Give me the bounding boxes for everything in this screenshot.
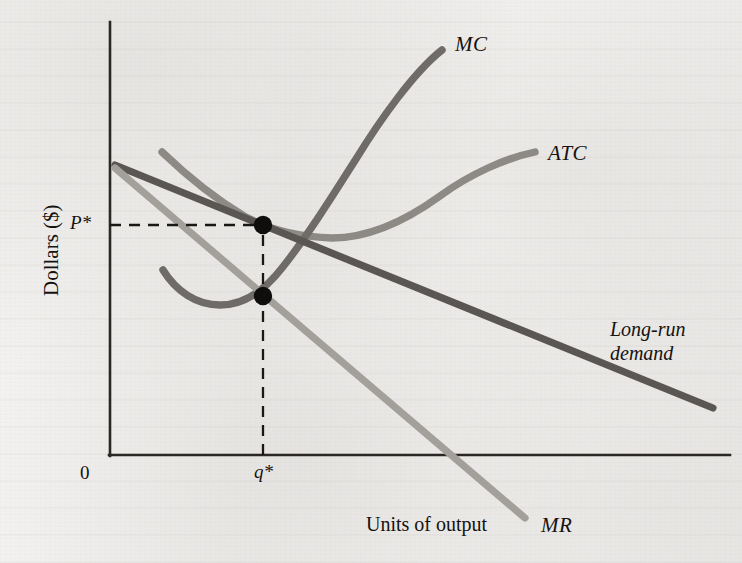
long-run-demand-curve-label: Long-run demand xyxy=(610,318,686,365)
atc-curve-label: ATC xyxy=(548,142,587,166)
long-run-demand-curve xyxy=(115,165,713,408)
figure-container: Dollars ($) P* 0 q* Units of output MC A… xyxy=(0,0,742,563)
mc-curve-label: MC xyxy=(455,33,487,57)
x-axis-tick-label-quantity: q* xyxy=(254,461,273,482)
long-run-demand-label-line-1: Long-run xyxy=(610,318,686,342)
y-axis-title: Dollars ($) xyxy=(40,204,64,296)
equilibrium-price-dot xyxy=(254,216,272,234)
mc-curve xyxy=(163,50,442,305)
long-run-demand-label-line-2: demand xyxy=(610,342,686,366)
x-axis-title: Units of output xyxy=(366,513,487,535)
mc-equals-mr-dot xyxy=(254,287,272,305)
economics-chart-plot xyxy=(0,0,742,563)
guide-lines-group xyxy=(110,225,263,455)
origin-label: 0 xyxy=(80,462,90,483)
mr-curve-label: MR xyxy=(541,514,572,538)
y-axis-tick-label-price: P* xyxy=(70,212,91,233)
